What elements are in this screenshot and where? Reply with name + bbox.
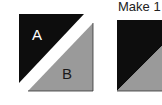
caption-text: Make 1: [118, 0, 161, 14]
half-square-triangles-diagram: A B: [0, 0, 162, 105]
triangle-b-label: B: [62, 65, 72, 82]
diagram-canvas: A B Make 1: [0, 0, 162, 105]
triangle-a-label: A: [32, 26, 42, 43]
